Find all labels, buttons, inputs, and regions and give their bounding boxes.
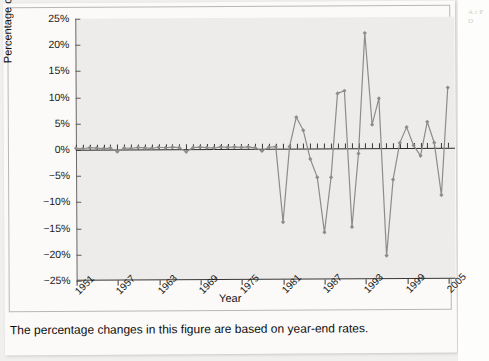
data-point-marker (363, 31, 367, 35)
data-point-marker (95, 146, 99, 150)
x-axis-label: Year (9, 291, 452, 305)
data-point-marker (108, 146, 112, 150)
data-point-marker (391, 177, 395, 181)
data-point-marker (260, 149, 264, 153)
data-point-marker (432, 141, 436, 145)
y-tick-label: −10% (28, 195, 70, 207)
edge-note-text: A c P D (468, 8, 488, 26)
data-point-marker (356, 151, 360, 155)
y-tick-label: 25% (27, 12, 69, 24)
y-tick-label: −15% (28, 221, 70, 233)
data-point-marker (281, 220, 285, 224)
data-point-marker (143, 146, 147, 150)
data-point-marker (205, 145, 209, 149)
data-point-marker (136, 145, 140, 149)
data-point-marker (129, 146, 133, 150)
y-tick-label: 20% (27, 38, 69, 50)
data-point-marker (232, 145, 236, 149)
plot-area (75, 17, 455, 281)
data-point-marker (446, 85, 450, 89)
data-point-marker (342, 89, 346, 93)
data-point-marker (350, 225, 354, 229)
data-series-line (75, 17, 455, 281)
data-point-marker (198, 145, 202, 149)
data-point-marker (115, 150, 119, 154)
y-tick-label: −25% (29, 274, 71, 286)
figure-panel: Percentage change Year 25%20%15%10%5%0%−… (7, 5, 453, 313)
y-tick-label: −20% (28, 248, 70, 260)
page-right-edge (458, 0, 489, 361)
data-point-marker (81, 147, 85, 151)
data-point-marker (315, 175, 319, 179)
data-point-marker (274, 145, 278, 149)
data-point-marker (212, 146, 216, 150)
data-point-marker (219, 145, 223, 149)
data-point-marker (335, 91, 339, 95)
scanned-page: A c P D Percentage change Year 25%20%15%… (0, 0, 489, 361)
data-point-marker (163, 146, 167, 150)
y-axis-label: Percentage change (1, 0, 13, 63)
data-point-marker (377, 96, 381, 100)
data-point-marker (398, 141, 402, 145)
data-point-marker (370, 123, 374, 127)
data-point-marker (170, 145, 174, 149)
series-polyline (75, 33, 448, 258)
data-point-marker (439, 193, 443, 197)
data-point-marker (157, 145, 161, 149)
data-point-marker (425, 120, 429, 124)
data-point-marker (329, 175, 333, 179)
data-point-marker (404, 125, 408, 129)
data-point-marker (287, 144, 291, 148)
data-point-marker (384, 253, 388, 257)
y-tick-label: 15% (28, 64, 70, 76)
data-point-marker (239, 145, 243, 149)
y-tick-label: 0% (28, 143, 70, 155)
data-point-marker (150, 146, 154, 150)
figure-caption: The percentage changes in this figure ar… (10, 321, 460, 337)
data-point-marker (246, 145, 250, 149)
data-point-marker (88, 146, 92, 150)
data-point-marker (101, 147, 105, 151)
data-point-marker (322, 230, 326, 234)
data-point-marker (225, 145, 229, 149)
y-tick-label: 5% (28, 117, 70, 129)
data-point-marker (294, 115, 298, 119)
y-tick-label: 10% (28, 90, 70, 102)
data-point-marker (308, 157, 312, 161)
y-tick-label: −5% (28, 169, 70, 181)
data-point-marker (301, 128, 305, 132)
data-point-marker (253, 146, 257, 150)
